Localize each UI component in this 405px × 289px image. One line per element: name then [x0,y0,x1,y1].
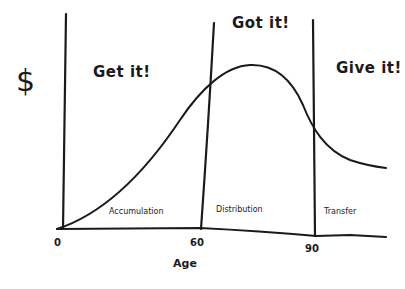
wealth-lifecycle-diagram: $ Get it! Got it! Give it! Accumulation … [0,0,405,289]
x-axis-line [57,228,386,237]
region-label-transfer: Transfer [324,208,356,216]
x-axis-label-age: Age [173,258,197,269]
x-tick-90: 90 [305,244,319,254]
region-label-distribution: Distribution [216,206,263,214]
region-label-accumulation: Accumulation [109,208,164,216]
divider-age-60 [201,23,214,229]
phase-heading-give-it: Give it! [336,61,402,76]
x-tick-60: 60 [190,238,204,248]
phase-heading-got-it: Got it! [232,16,290,31]
x-tick-0: 0 [54,238,61,248]
phase-heading-get-it: Get it! [93,65,151,80]
y-axis-line [63,14,66,229]
y-axis-label-dollar: $ [16,66,35,96]
